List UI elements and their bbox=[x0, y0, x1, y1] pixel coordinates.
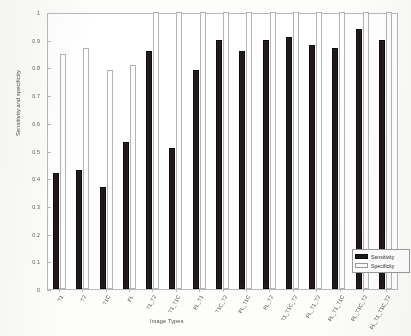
figure-canvas: Sensitivity and specificity 00.10.20.30.… bbox=[0, 0, 411, 336]
y-tick-mark bbox=[47, 262, 51, 263]
x-tick-mark bbox=[152, 288, 153, 292]
bar-sensitivity bbox=[53, 173, 59, 289]
x-tick: FL_T2 bbox=[258, 292, 281, 336]
y-tick-label: 0.2 bbox=[14, 232, 40, 238]
bar-specificity bbox=[386, 12, 392, 289]
y-tick-mark bbox=[47, 152, 51, 153]
bar-specificity bbox=[339, 12, 345, 289]
bar-specificity bbox=[83, 48, 89, 289]
x-tick: T1 bbox=[47, 292, 70, 336]
bar-specificity bbox=[293, 12, 299, 289]
x-tick-label: FL bbox=[126, 294, 134, 302]
legend-item-specificity: Specificity bbox=[355, 261, 407, 270]
bars-layer bbox=[48, 14, 397, 289]
bar-sensitivity bbox=[332, 48, 338, 289]
x-tick: T1_T1C bbox=[164, 292, 187, 336]
bar-specificity bbox=[176, 12, 182, 289]
y-tick-mark bbox=[47, 96, 51, 97]
x-tick-label: FL_T1 bbox=[192, 294, 205, 311]
y-tick-mark bbox=[47, 290, 51, 291]
x-tick-mark bbox=[340, 288, 341, 292]
bar-group bbox=[211, 14, 234, 289]
x-tick-mark bbox=[199, 288, 200, 292]
x-tick-mark bbox=[316, 288, 317, 292]
bar-group bbox=[304, 14, 327, 289]
bar-specificity bbox=[60, 54, 66, 289]
bar-sensitivity bbox=[286, 37, 292, 289]
x-tick-mark bbox=[293, 288, 294, 292]
bar-sensitivity bbox=[146, 51, 152, 289]
y-tick-label: 0 bbox=[14, 287, 40, 293]
y-tick-mark bbox=[47, 207, 51, 208]
x-tick-mark bbox=[246, 288, 247, 292]
bar-sensitivity bbox=[309, 45, 315, 289]
x-tick: T1_T1C_T2 bbox=[281, 292, 304, 336]
x-tick-mark bbox=[176, 288, 177, 292]
y-tick-label: 0.6 bbox=[14, 121, 40, 127]
x-tick: FL_T1_T1C_T2 bbox=[375, 292, 398, 336]
x-tick-label: T1 bbox=[56, 294, 64, 302]
x-tick-label: T1_T1C bbox=[167, 294, 181, 314]
bar-specificity bbox=[316, 12, 322, 289]
y-tick-mark bbox=[47, 124, 51, 125]
x-tick-label: FL_T1C_T2 bbox=[350, 294, 369, 322]
bar-group bbox=[71, 14, 94, 289]
bar-specificity bbox=[130, 65, 136, 289]
x-tick-mark bbox=[129, 288, 130, 292]
y-tick-label: 0.3 bbox=[14, 204, 40, 210]
x-tick-label: T1C_T2 bbox=[213, 294, 227, 314]
bar-specificity bbox=[200, 12, 206, 289]
bar-specificity bbox=[223, 12, 229, 289]
y-tick-label: 1 bbox=[14, 10, 40, 16]
y-tick-label: 0.8 bbox=[14, 65, 40, 71]
bar-specificity bbox=[270, 12, 276, 289]
bar-group bbox=[95, 14, 118, 289]
x-tick-label: T2 bbox=[79, 294, 87, 302]
y-tick-label: 0.1 bbox=[14, 259, 40, 265]
bar-sensitivity bbox=[239, 51, 245, 289]
bar-group bbox=[141, 14, 164, 289]
x-tick-label: FL_T1_T2 bbox=[305, 294, 322, 319]
bar-group bbox=[48, 14, 71, 289]
bar-group bbox=[164, 14, 187, 289]
y-tick-mark bbox=[47, 13, 51, 14]
bar-sensitivity bbox=[76, 170, 82, 289]
y-tick-mark bbox=[47, 68, 51, 69]
legend-swatch-specificity bbox=[355, 263, 368, 268]
bar-specificity bbox=[107, 70, 113, 289]
x-tick: FL_T1C bbox=[234, 292, 257, 336]
x-tick-mark bbox=[223, 288, 224, 292]
x-axis-ticks: T1T2T1CFLT1_T2T1_T1CFL_T1T1C_T2FL_T1CFL_… bbox=[47, 292, 398, 336]
x-tick-label: FL_T1C bbox=[237, 294, 251, 314]
bar-sensitivity bbox=[123, 142, 129, 289]
x-tick: T1_T2 bbox=[141, 292, 164, 336]
y-tick-label: 0.5 bbox=[14, 149, 40, 155]
bar-specificity bbox=[246, 12, 252, 289]
bar-specificity bbox=[363, 12, 369, 289]
bar-sensitivity bbox=[169, 148, 175, 289]
y-tick-label: 0.7 bbox=[14, 93, 40, 99]
bar-group bbox=[281, 14, 304, 289]
x-tick: T1C bbox=[94, 292, 117, 336]
bar-group bbox=[118, 14, 141, 289]
x-tick: T1C_T2 bbox=[211, 292, 234, 336]
x-tick: FL_T1 bbox=[187, 292, 210, 336]
y-tick-label: 0.9 bbox=[14, 38, 40, 44]
y-tick-label: 0.4 bbox=[14, 176, 40, 182]
y-tick-mark bbox=[47, 235, 51, 236]
x-tick-mark bbox=[386, 288, 387, 292]
bar-group bbox=[374, 14, 397, 289]
plot-area bbox=[47, 13, 398, 290]
bar-group bbox=[350, 14, 373, 289]
x-tick-label: T1_T2 bbox=[145, 294, 158, 311]
x-tick-label: FL_T2 bbox=[262, 294, 275, 311]
x-tick: FL bbox=[117, 292, 140, 336]
x-tick: T2 bbox=[70, 292, 93, 336]
x-tick: FL_T1_T2 bbox=[304, 292, 327, 336]
bar-sensitivity bbox=[216, 40, 222, 289]
legend-label-sensitivity: Sensitivity bbox=[371, 254, 394, 260]
bar-sensitivity bbox=[263, 40, 269, 289]
bar-group bbox=[327, 14, 350, 289]
bar-group bbox=[234, 14, 257, 289]
bar-group bbox=[188, 14, 211, 289]
